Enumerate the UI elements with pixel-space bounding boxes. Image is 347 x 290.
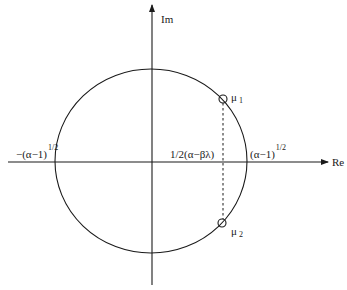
imaginary-axis-label: Im [161,13,174,25]
center-label: 1/2(α−βλ) [170,148,215,161]
complex-plane-diagram: Re Im μ1 μ2 −(α−1)1/2 1/2(α−βλ) (α−1)1/2 [0,0,347,290]
real-axis-label: Re [332,156,344,168]
mu1-point [219,95,227,103]
right-intercept-label: (α−1)1/2 [250,143,286,161]
mu1-label: μ1 [231,91,243,105]
mu2-label: μ2 [231,225,243,239]
left-intercept-label: −(α−1)1/2 [16,143,58,161]
